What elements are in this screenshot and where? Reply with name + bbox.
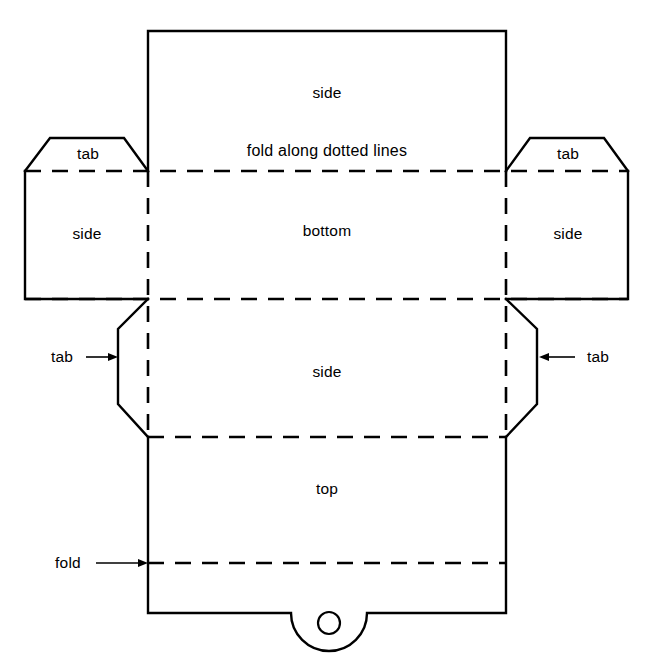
right-middle-tab-outline: [506, 299, 537, 437]
panel-label-side-right: side: [553, 225, 582, 243]
left-middle-tab-outline: [118, 299, 148, 437]
finger-hole-icon: [318, 612, 340, 634]
panel-label-side-middle: side: [312, 363, 341, 381]
box-net-diagram: fold along dotted lines side tab tab sid…: [0, 0, 649, 672]
callout-label-tab-left: tab: [51, 348, 73, 366]
panel-label-tab-top-right: tab: [557, 145, 579, 163]
fold-instruction-text: fold along dotted lines: [247, 142, 407, 160]
tab-left-leader-arrow: [86, 353, 118, 361]
panel-label-bottom: bottom: [303, 222, 352, 240]
callout-label-fold: fold: [55, 554, 81, 572]
panel-label-side-left: side: [72, 225, 101, 243]
panel-label-top: top: [316, 480, 338, 498]
panel-label-side-top: side: [312, 84, 341, 102]
tab-right-leader-arrow: [539, 353, 575, 361]
fold-leader-arrow: [96, 559, 148, 567]
callout-label-tab-right: tab: [587, 348, 609, 366]
panel-label-tab-top-left: tab: [77, 145, 99, 163]
